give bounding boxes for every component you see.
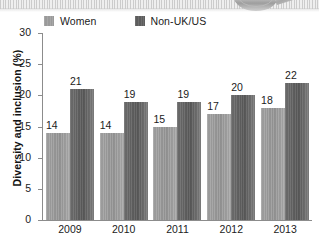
legend-label-non-uk-us: Non-UK/US xyxy=(151,15,207,27)
bar-value-label: 17 xyxy=(207,100,219,112)
bar-value-label: 22 xyxy=(285,69,297,81)
bar-group: 1720 xyxy=(204,33,258,220)
bar-value-label: 20 xyxy=(231,81,243,93)
x-axis-labels: 20092010201120122013 xyxy=(43,223,312,235)
bar-group: 1822 xyxy=(258,33,312,220)
bar-group: 1421 xyxy=(43,33,97,220)
y-axis-tick-label: 25 xyxy=(19,57,31,69)
y-axis-tick-label: 10 xyxy=(19,151,31,163)
bar-value-label: 14 xyxy=(100,119,112,131)
y-axis-tick-label: 30 xyxy=(19,26,31,38)
y-axis-tick: 5 xyxy=(38,189,42,190)
bar-group: 1419 xyxy=(97,33,151,220)
y-axis-tick: 0 xyxy=(38,220,42,221)
bar[interactable]: 17 xyxy=(207,114,231,220)
x-axis-label: 2013 xyxy=(258,223,312,235)
bar-groups: 14211419151917201822 xyxy=(43,33,312,220)
y-axis-tick: 15 xyxy=(38,127,42,128)
x-axis-label: 2010 xyxy=(97,223,151,235)
bar-value-label: 19 xyxy=(124,88,136,100)
y-axis-tick: 20 xyxy=(38,95,42,96)
legend-item-women[interactable]: Women xyxy=(44,15,97,27)
bar[interactable]: 15 xyxy=(153,127,177,221)
x-axis-label: 2011 xyxy=(151,223,205,235)
bar[interactable]: 21 xyxy=(70,89,94,220)
legend-swatch-non-uk-us-icon xyxy=(135,16,145,26)
y-axis-tick: 10 xyxy=(38,158,42,159)
x-axis-line xyxy=(42,220,312,221)
y-axis-tick: 30 xyxy=(38,33,42,34)
y-axis-tick: 25 xyxy=(38,64,42,65)
x-axis-label: 2009 xyxy=(43,223,97,235)
bar[interactable]: 14 xyxy=(100,133,124,220)
bar-chart: Women Non-UK/US Diversity and inclusion … xyxy=(0,0,319,242)
bar-value-label: 15 xyxy=(153,113,165,125)
bar-value-label: 19 xyxy=(177,88,189,100)
bar[interactable]: 22 xyxy=(285,83,309,220)
bar[interactable]: 19 xyxy=(124,102,148,220)
y-axis-tick-label: 15 xyxy=(19,120,31,132)
legend-item-non-uk-us[interactable]: Non-UK/US xyxy=(135,15,207,27)
bar[interactable]: 20 xyxy=(231,95,255,220)
chart-screenshot: Women Non-UK/US Diversity and inclusion … xyxy=(0,0,319,242)
bar-value-label: 21 xyxy=(70,75,82,87)
chart-legend: Women Non-UK/US xyxy=(44,14,206,27)
x-axis-label: 2012 xyxy=(204,223,258,235)
bar-value-label: 14 xyxy=(46,119,58,131)
bar[interactable]: 18 xyxy=(261,108,285,220)
bar[interactable]: 14 xyxy=(46,133,70,220)
plot-area: 051015202530 14211419151917201822 xyxy=(42,33,312,220)
y-axis-tick-label: 0 xyxy=(25,213,31,225)
legend-label-women: Women xyxy=(60,15,97,27)
legend-swatch-women-icon xyxy=(44,16,54,26)
bar-group: 1519 xyxy=(151,33,205,220)
y-axis-tick-label: 5 xyxy=(25,182,31,194)
y-axis-tick-label: 20 xyxy=(19,88,31,100)
bar-value-label: 18 xyxy=(261,94,273,106)
bar[interactable]: 19 xyxy=(177,102,201,220)
